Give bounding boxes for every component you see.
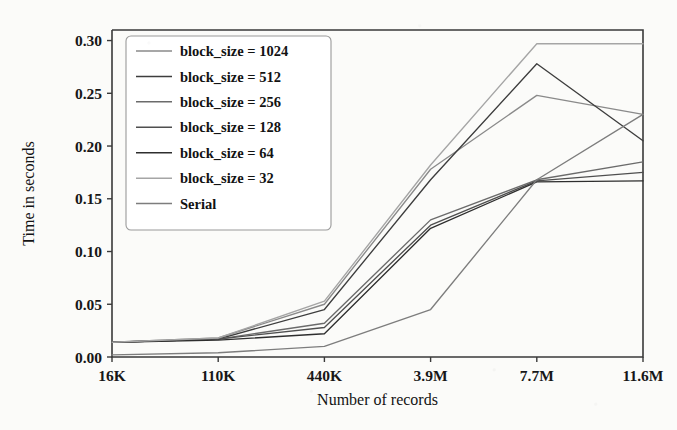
line-chart: 0.000.050.100.150.200.250.30 16K110K440K… <box>0 0 677 430</box>
y-axis-tick-label: 0.20 <box>75 138 102 155</box>
y-axis-tick-label: 0.25 <box>75 85 102 102</box>
legend-label-2: block_size = 256 <box>180 94 281 110</box>
y-axis-tick-label: 0.05 <box>75 296 102 313</box>
x-axis-title: Number of records <box>317 391 438 408</box>
x-axis-tick-label: 16K <box>98 367 126 384</box>
x-axis-tick-label: 3.9M <box>414 367 448 384</box>
y-axis-tick-label: 0.00 <box>75 349 102 366</box>
x-axis-tick-label: 11.6M <box>623 367 664 384</box>
x-axis: 16K110K440K3.9M7.7M11.6M <box>98 357 664 384</box>
legend-label-4: block_size = 64 <box>180 145 274 161</box>
y-axis-tick-label: 0.15 <box>75 190 102 207</box>
chart-figure: 0.000.050.100.150.200.250.30 16K110K440K… <box>0 0 677 430</box>
legend-label-6: Serial <box>180 196 216 212</box>
x-axis-tick-label: 7.7M <box>520 367 554 384</box>
y-axis-tick-label: 0.30 <box>75 32 102 49</box>
y-axis-tick-label: 0.10 <box>75 243 102 260</box>
chart-legend: block_size = 1024block_size = 512block_s… <box>126 36 331 230</box>
y-axis-title: Time in seconds <box>20 141 37 245</box>
legend-label-0: block_size = 1024 <box>180 43 288 59</box>
legend-label-5: block_size = 32 <box>180 170 274 186</box>
x-axis-tick-label: 110K <box>201 367 235 384</box>
y-axis: 0.000.050.100.150.200.250.30 <box>75 32 112 365</box>
x-axis-tick-label: 440K <box>307 367 342 384</box>
legend-label-1: block_size = 512 <box>180 69 281 85</box>
legend-label-3: block_size = 128 <box>180 119 281 135</box>
